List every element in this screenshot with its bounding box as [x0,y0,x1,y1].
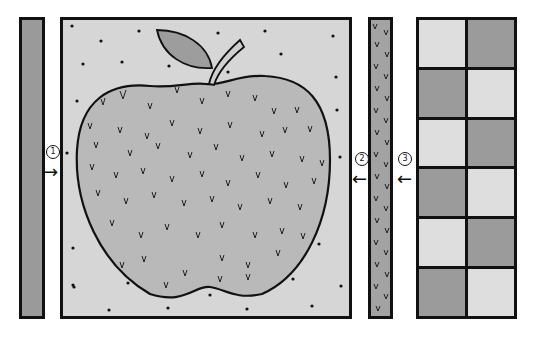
arrow-left-icon: ← [352,170,367,188]
label-2: 2 [355,152,369,166]
apple-body [77,76,330,298]
apple-illustration [0,0,534,337]
arrow-left-icon: ← [397,170,412,188]
arrow-right-icon: → [43,163,58,181]
strip-texture-marks [373,24,389,311]
apple-leaf [157,30,212,68]
label-3: 3 [398,152,412,166]
label-1: 1 [46,145,60,159]
